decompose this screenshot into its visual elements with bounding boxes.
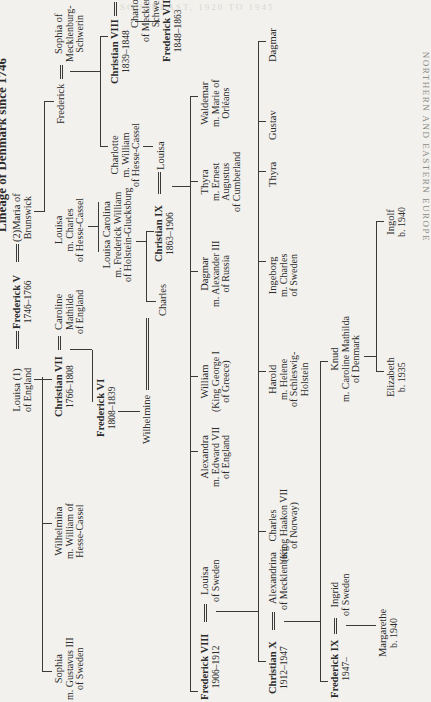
node-louisa-charles: Louisa m. Charles of Hesse-Cassel — [54, 198, 86, 262]
node-caroline-mathilde: Caroline Mathilde of England — [54, 290, 86, 334]
connector — [216, 611, 258, 612]
node-sophia-mecklenburg: Sophia of Mecklenburg- Schwerin — [54, 6, 86, 62]
node-wilhelmina: Wilhelmina m. William of Hesse-Cassel — [54, 503, 86, 559]
node-christian-ix: Christian IX 1863–1906 — [154, 205, 175, 262]
connector — [320, 362, 321, 682]
node-alexandra: Alexandra m. Edward VII of England — [200, 427, 232, 487]
connector — [190, 96, 198, 97]
node-thyra-cumberland: Thyra m. Ernest Augustus of Cumberland — [200, 152, 242, 212]
connector — [258, 171, 266, 172]
connector — [136, 241, 146, 242]
connector — [320, 681, 328, 682]
node-frederick-viii: Frederick VIII 1906–1912 — [200, 634, 221, 700]
node-thyra-unmarried: Thyra — [268, 162, 279, 187]
connector — [70, 349, 92, 350]
marriage-link — [114, 2, 117, 16]
connector — [34, 211, 44, 212]
node-christian-x: Christian X 1912–1947 — [268, 641, 289, 694]
connector — [190, 181, 198, 182]
node-ingrid: Ingrid of Sweden — [330, 574, 351, 617]
connector — [100, 37, 101, 147]
marriage-link — [60, 65, 63, 79]
marriage-link — [16, 244, 19, 262]
connector — [42, 523, 52, 524]
page: SOUTHEAST, 1920 TO 1945 Lineage of Denma… — [0, 0, 431, 702]
connector — [146, 301, 156, 302]
connector — [346, 625, 376, 626]
node-christian-viii: Christian VIII 1839–1848 — [110, 19, 131, 84]
connector — [320, 361, 328, 362]
connector — [258, 121, 266, 122]
connector — [376, 222, 377, 372]
connector — [70, 71, 100, 72]
node-charles: Charles — [158, 284, 169, 316]
marriage-link — [146, 318, 149, 390]
node-william-george-i: William (King George I of Greece) — [200, 351, 232, 412]
node-frederick-vi: Frederick VI 1808–1839 — [96, 379, 117, 437]
node-knud: Knud m. Caroline Mathilda of Denmark — [330, 316, 362, 402]
connector — [258, 261, 266, 262]
family-tree-diagram: Lineage of Denmark since 1746 NORTHERN A… — [0, 0, 431, 702]
connector — [190, 451, 198, 452]
connector — [118, 411, 140, 412]
connector — [88, 226, 98, 227]
node-louisa-carolina: Louisa Carolina m. Frederick William of … — [102, 187, 134, 282]
connector — [258, 41, 266, 42]
node-sophia-gustavus: Sophia m. Gustavus III of Sweden — [54, 638, 86, 701]
marriage-link — [158, 172, 161, 194]
node-maria-of-brunswick: (2)Maria of Brunswick — [12, 193, 33, 242]
connector — [100, 146, 108, 147]
connector — [190, 376, 198, 377]
node-wilhelmine: Wilhelmine — [142, 395, 153, 444]
connector — [44, 101, 54, 102]
connector — [258, 531, 266, 532]
node-louisa-sweden: Louisa of Sweden — [200, 560, 221, 603]
connector — [376, 221, 384, 222]
node-ingolf: Ingolf b. 1940 — [386, 207, 407, 237]
marriage-link — [272, 612, 275, 630]
marriage-link — [204, 604, 207, 622]
node-waldemar: Waldemar m. Marie of Orléans — [200, 80, 232, 128]
node-gustav: Gustav — [268, 110, 279, 140]
connector — [190, 691, 198, 692]
connector — [143, 146, 153, 147]
connector — [42, 671, 52, 672]
running-header: NORTHERN AND EASTERN EUROPE — [421, 52, 431, 242]
connector — [258, 661, 266, 662]
connector — [190, 271, 198, 272]
connector — [98, 202, 99, 252]
connector — [284, 621, 320, 622]
connector — [34, 379, 42, 380]
connector — [42, 379, 52, 380]
node-harold: Harold m. Helene of Schleswig- Holstein — [268, 352, 310, 407]
connector — [135, 21, 160, 22]
node-dagmar-unmarried: Dagmar — [268, 28, 279, 62]
node-christian-vii: Christian VII 1766–1808 — [54, 356, 75, 417]
node-louisa-of-england: Louisa (1) of England — [12, 368, 33, 412]
connector — [44, 102, 45, 212]
connector — [100, 36, 108, 37]
node-louisa-hesse: Louisa — [156, 141, 167, 170]
node-frederick-vii: Frederick VII 1848–1863 — [162, 0, 183, 62]
connector — [146, 232, 147, 302]
node-margarethe: Margarethe b. 1940 — [378, 609, 399, 657]
node-frederick: Frederick — [56, 84, 67, 124]
connector — [258, 42, 259, 662]
marriage-link — [16, 331, 19, 349]
connector — [364, 356, 376, 357]
marriage-link — [58, 336, 61, 350]
connector — [190, 97, 191, 692]
connector — [258, 371, 266, 372]
node-frederick-ix: Frederick IX 1947– — [330, 640, 351, 698]
node-frederick-v: Frederick V 1746–1766 — [12, 275, 33, 329]
connector — [92, 350, 93, 402]
page-title: Lineage of Denmark since 1746 — [0, 58, 10, 232]
node-ingeborg: Ingeborg m. Charles of Sweden — [268, 254, 300, 297]
node-charlotte-hesse: Charlotte m. William of Hesse-Cassel — [110, 123, 142, 187]
connector — [172, 186, 190, 187]
node-charles-haakon-vii: Charles (King Haakon VII of Norway) — [268, 489, 300, 562]
connector — [376, 371, 384, 372]
connector — [42, 377, 43, 672]
marriage-link — [334, 618, 337, 634]
node-elizabeth: Elizabeth b. 1935 — [386, 357, 407, 397]
